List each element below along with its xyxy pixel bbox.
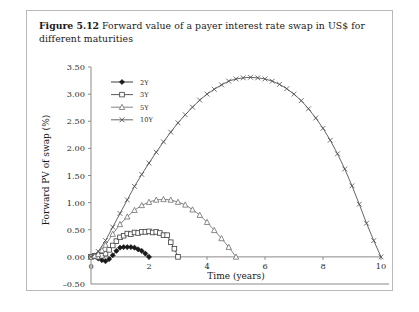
data-point-marker bbox=[364, 221, 369, 226]
y-tick-label: 0.00 bbox=[67, 252, 85, 262]
y-tick-label: 0.50 bbox=[67, 225, 85, 235]
legend-label-2y: 2Y bbox=[140, 79, 149, 87]
legend-label-10y: 10Y bbox=[140, 116, 153, 124]
data-point-marker bbox=[277, 82, 282, 87]
data-point-marker bbox=[147, 161, 152, 166]
data-point-marker bbox=[292, 92, 297, 97]
data-point-marker bbox=[125, 198, 130, 203]
legend-label-3y: 3Y bbox=[140, 91, 149, 99]
data-point-marker bbox=[321, 126, 326, 131]
data-point-marker bbox=[139, 172, 144, 177]
data-point-marker bbox=[190, 105, 195, 110]
data-point-marker bbox=[118, 211, 123, 216]
x-axis-title: Time (years) bbox=[207, 271, 264, 281]
x-tick-label: 6 bbox=[262, 261, 267, 271]
chart-legend: 2Y3Y5Y10Y bbox=[111, 79, 153, 125]
data-point-marker bbox=[139, 202, 144, 207]
data-point-marker bbox=[176, 120, 181, 125]
data-point-marker bbox=[328, 138, 333, 143]
data-point-marker bbox=[350, 183, 355, 188]
forward-pv-line-chart: –0.500.000.501.001.502.002.503.003.50 02… bbox=[27, 55, 394, 290]
data-point-marker bbox=[107, 248, 112, 253]
data-point-marker bbox=[371, 238, 376, 243]
y-axis-tick-labels: –0.500.000.501.001.502.002.503.003.50 bbox=[63, 62, 85, 289]
figure-number: Figure 5.12 bbox=[39, 20, 99, 31]
y-tick-label: 3.00 bbox=[67, 89, 85, 99]
data-point-marker bbox=[197, 98, 202, 103]
y-tick-label: 2.50 bbox=[67, 116, 85, 126]
data-point-marker bbox=[306, 106, 311, 111]
data-point-marker bbox=[176, 255, 181, 260]
figure-container: Figure 5.12 Forward value of a payer int… bbox=[26, 10, 393, 291]
data-point-marker bbox=[161, 196, 166, 201]
x-tick-label: 8 bbox=[320, 261, 325, 271]
data-point-marker bbox=[197, 212, 202, 217]
data-point-marker bbox=[120, 92, 125, 97]
series-3y bbox=[89, 229, 181, 259]
data-point-marker bbox=[154, 150, 159, 155]
data-point-marker bbox=[313, 116, 318, 121]
y-tick-label: 1.50 bbox=[67, 171, 85, 181]
data-point-marker bbox=[161, 139, 166, 144]
chart-plot-area: –0.500.000.501.001.502.002.503.003.50 02… bbox=[27, 55, 394, 290]
data-point-marker bbox=[190, 207, 195, 212]
data-point-marker bbox=[270, 79, 275, 84]
x-tick-label: 4 bbox=[204, 261, 209, 271]
x-tick-label: 10 bbox=[376, 261, 386, 271]
data-point-marker bbox=[183, 112, 188, 117]
data-point-marker bbox=[165, 233, 170, 238]
data-point-marker bbox=[205, 92, 210, 97]
data-point-marker bbox=[172, 246, 177, 251]
data-point-marker bbox=[299, 98, 304, 103]
data-point-marker bbox=[284, 86, 289, 91]
data-point-marker bbox=[110, 225, 115, 230]
legend-label-5y: 5Y bbox=[140, 104, 149, 112]
data-point-marker bbox=[168, 130, 173, 135]
data-point-marker bbox=[132, 184, 137, 189]
data-point-marker bbox=[110, 243, 115, 248]
data-point-marker bbox=[168, 240, 173, 245]
y-tick-label: 3.50 bbox=[67, 62, 85, 72]
data-point-marker bbox=[132, 207, 137, 212]
y-tick-label: 1.00 bbox=[67, 198, 85, 208]
data-point-marker bbox=[219, 83, 224, 88]
data-point-marker bbox=[335, 151, 340, 156]
chart-series-group bbox=[88, 75, 383, 264]
data-point-marker bbox=[342, 167, 347, 172]
data-point-marker bbox=[119, 79, 124, 84]
data-point-marker bbox=[212, 87, 217, 92]
x-tick-label: 2 bbox=[146, 261, 151, 271]
figure-caption: Figure 5.12 Forward value of a payer int… bbox=[39, 20, 381, 45]
y-tick-label: 2.00 bbox=[67, 143, 85, 153]
x-axis-tick-labels: 0246810 bbox=[88, 261, 386, 271]
data-point-marker bbox=[226, 79, 231, 84]
y-axis-title: Forward PV of swap (%) bbox=[41, 115, 51, 225]
y-tick-label: –0.50 bbox=[63, 279, 85, 289]
data-point-marker bbox=[357, 202, 362, 207]
